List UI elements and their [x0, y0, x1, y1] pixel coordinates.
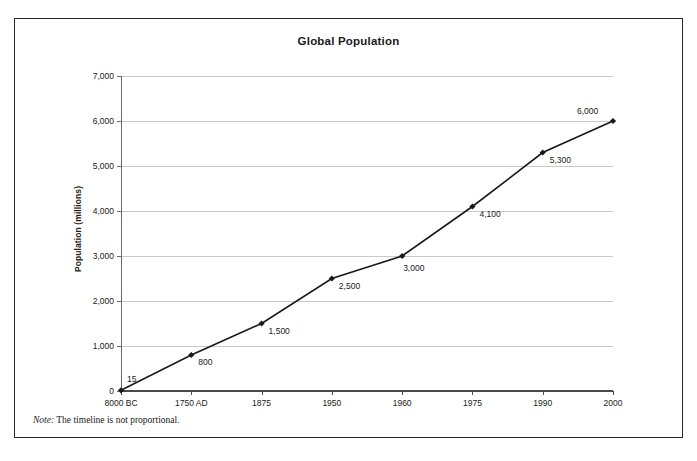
- x-tick-mark: [402, 391, 403, 395]
- plot-area: 7,0006,0005,0004,0003,0002,0001,0000 800…: [121, 76, 613, 391]
- y-tick-label: 3,000: [93, 251, 114, 261]
- y-tick-label: 0: [109, 386, 114, 396]
- x-tick-mark: [332, 391, 333, 395]
- gridline: [121, 391, 613, 392]
- note-text: The timeline is not proportional.: [54, 415, 179, 425]
- data-point-marker: [118, 387, 124, 393]
- y-tick-label: 5,000: [93, 161, 114, 171]
- data-point-marker: [188, 352, 194, 358]
- y-tick-label: 7,000: [93, 71, 114, 81]
- figure-frame: Global Population Population (millions) …: [14, 18, 683, 438]
- x-tick-mark: [613, 391, 614, 395]
- x-tick-label: 1975: [463, 398, 482, 408]
- data-point-label: 3,000: [403, 263, 424, 273]
- x-tick-label: 1750 AD: [175, 398, 208, 408]
- x-tick-label: 1960: [393, 398, 412, 408]
- data-point-label: 800: [198, 357, 212, 367]
- x-tick-label: 8000 BC: [104, 398, 137, 408]
- data-point-marker: [610, 118, 616, 124]
- y-axis-title: Population (millions): [69, 19, 87, 439]
- x-tick-mark: [262, 391, 263, 395]
- figure-note: Note: The timeline is not proportional.: [33, 415, 180, 425]
- x-tick-label: 1950: [322, 398, 341, 408]
- data-point-label: 4,100: [479, 209, 500, 219]
- x-tick-label: 1990: [533, 398, 552, 408]
- data-point-label: 1,500: [269, 326, 290, 336]
- x-tick-mark: [472, 391, 473, 395]
- x-tick-label: 1875: [252, 398, 271, 408]
- y-tick-label: 6,000: [93, 116, 114, 126]
- y-tick-label: 2,000: [93, 296, 114, 306]
- y-tick-label: 1,000: [93, 341, 114, 351]
- x-tick-mark: [543, 391, 544, 395]
- series-line: [121, 121, 613, 390]
- y-axis-title-text: Population (millions): [73, 186, 83, 272]
- y-tick-label: 4,000: [93, 206, 114, 216]
- data-point-label: 15: [127, 374, 136, 384]
- note-label: Note:: [33, 415, 54, 425]
- data-point-label: 5,300: [550, 155, 571, 165]
- population-line-series: [121, 76, 613, 391]
- data-point-label: 6,000: [577, 106, 598, 116]
- x-tick-mark: [191, 391, 192, 395]
- chart-title: Global Population: [15, 35, 682, 47]
- x-tick-label: 2000: [604, 398, 623, 408]
- data-point-label: 2,500: [339, 281, 360, 291]
